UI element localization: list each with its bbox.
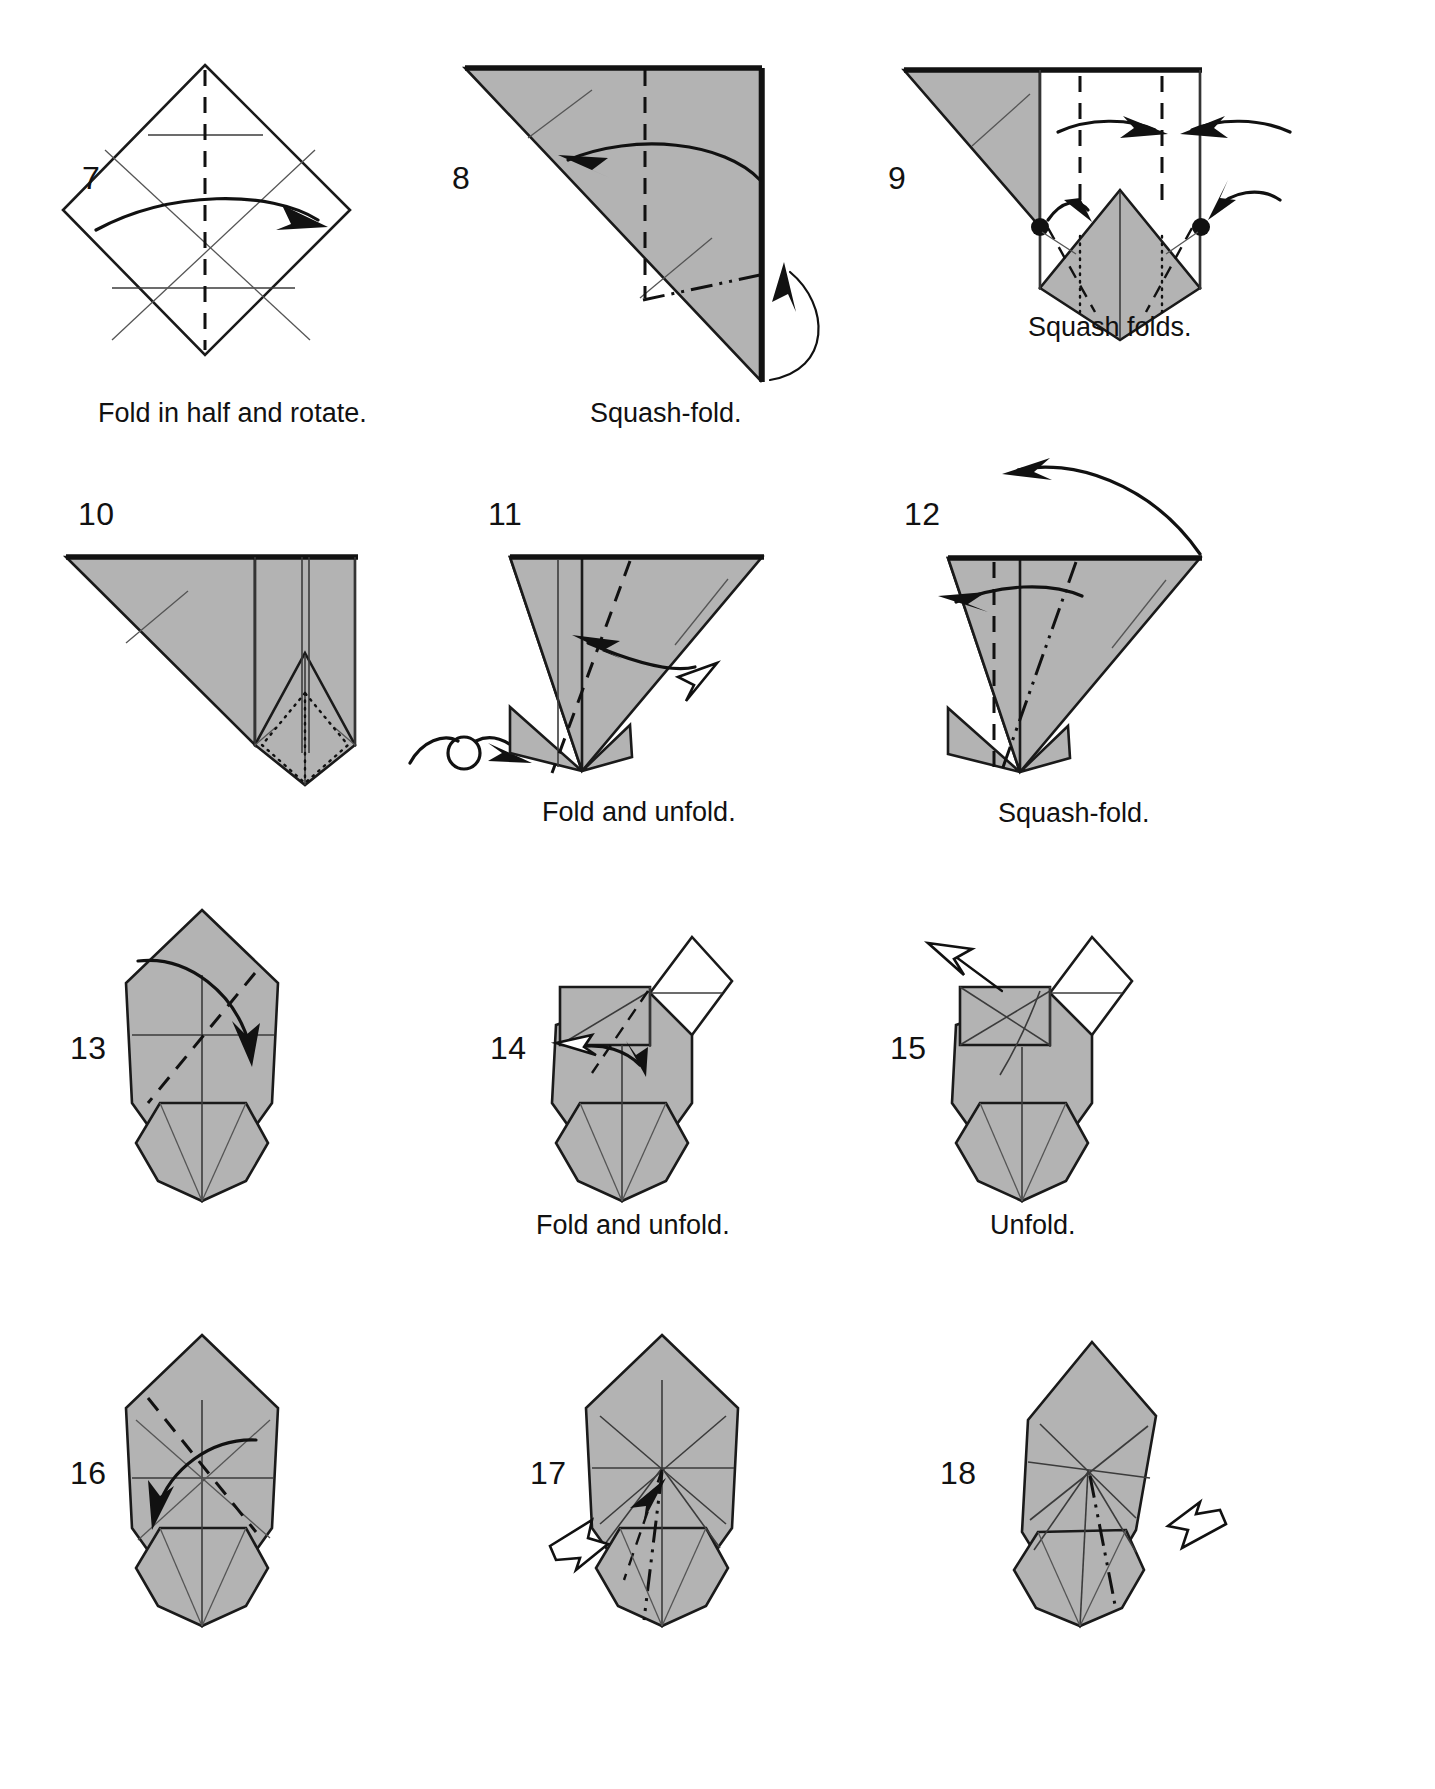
step-17-figure bbox=[520, 1320, 860, 1720]
step-15: 15 Unfold. bbox=[880, 895, 1210, 1225]
step-12: 12 Squash-fold. bbox=[890, 450, 1290, 830]
step-11-figure bbox=[480, 495, 820, 825]
step-11: 11 Fold and unfold. bbox=[480, 495, 820, 825]
step-14: 14 Fold and unfold. bbox=[480, 895, 810, 1225]
caption-11: Fold and unfold. bbox=[542, 797, 736, 828]
step-12-figure bbox=[890, 450, 1290, 830]
caption-15: Unfold. bbox=[990, 1210, 1076, 1241]
arrowhead-hollow-unfold bbox=[928, 943, 972, 975]
step-number-14: 14 bbox=[490, 1030, 527, 1067]
paper-triangle bbox=[465, 68, 760, 380]
caption-14: Fold and unfold. bbox=[536, 1210, 730, 1241]
step-13: 13 bbox=[60, 895, 390, 1225]
step-10-figure bbox=[40, 495, 480, 815]
step-13-figure bbox=[60, 895, 390, 1225]
step-number-18: 18 bbox=[940, 1455, 977, 1492]
push-arrow-hollow bbox=[1168, 1502, 1226, 1548]
step-18: 18 bbox=[930, 1320, 1270, 1720]
paper-left-triangle bbox=[904, 70, 1040, 227]
step-17: 17 bbox=[520, 1320, 860, 1720]
paper-base bbox=[1014, 1530, 1144, 1626]
step-8: 8 Squash-fold. bbox=[440, 50, 840, 390]
step-number-8: 8 bbox=[452, 160, 470, 197]
caption-9: Squash folds. bbox=[1028, 312, 1192, 343]
step-8-figure bbox=[440, 50, 840, 390]
step-number-17: 17 bbox=[530, 1455, 567, 1492]
step-9: 9 bbox=[880, 50, 1300, 380]
step-number-15: 15 bbox=[890, 1030, 927, 1067]
step-18-figure bbox=[930, 1320, 1270, 1720]
step-number-12: 12 bbox=[904, 496, 941, 533]
reference-dot-right bbox=[1192, 218, 1210, 236]
step-7-figure bbox=[60, 50, 420, 390]
reference-dot-left bbox=[1031, 218, 1049, 236]
arrow-sweep-up bbox=[1018, 467, 1200, 554]
step-number-7: 7 bbox=[82, 160, 100, 197]
step-16: 16 bbox=[60, 1320, 390, 1720]
arrowhead-sweep bbox=[1002, 458, 1052, 480]
step-10: 10 bbox=[40, 495, 480, 815]
step-number-16: 16 bbox=[70, 1455, 107, 1492]
step-14-figure bbox=[480, 895, 810, 1225]
step-number-9: 9 bbox=[888, 160, 906, 197]
step-number-13: 13 bbox=[70, 1030, 107, 1067]
step-number-11: 11 bbox=[488, 496, 522, 533]
caption-8: Squash-fold. bbox=[590, 398, 742, 429]
caption-7: Fold in half and rotate. bbox=[98, 398, 367, 429]
step-7: 7 Fold in half and rotate. bbox=[60, 50, 420, 390]
caption-12: Squash-fold. bbox=[998, 798, 1150, 829]
step-15-figure bbox=[880, 895, 1210, 1225]
origami-diagram-page: 7 Fold in half and rotate. 8 bbox=[0, 0, 1435, 1789]
step-number-10: 10 bbox=[78, 496, 115, 533]
arrowhead-kite-right bbox=[1208, 180, 1236, 220]
arrowhead-squash bbox=[772, 262, 796, 312]
step-16-figure bbox=[60, 1320, 390, 1720]
paper-left-triangle bbox=[66, 557, 255, 745]
